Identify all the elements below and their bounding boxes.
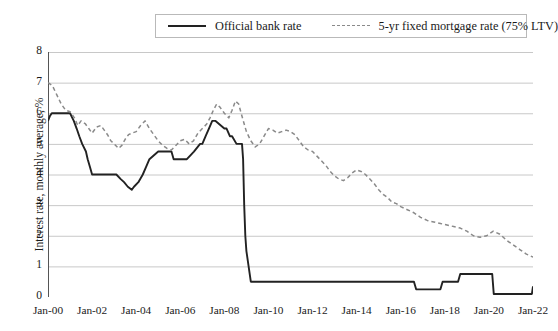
x-tick-label-jan-16: Jan-16 xyxy=(386,305,416,316)
x-tick-label-jan-12: Jan-12 xyxy=(297,305,327,316)
plot-area xyxy=(48,52,533,297)
x-tick-label-jan-14: Jan-14 xyxy=(342,305,372,316)
x-tick-label-jan-06: Jan-06 xyxy=(165,305,195,316)
x-tick-label-jan-18: Jan-18 xyxy=(430,305,460,316)
x-tick-label-jan-20: Jan-20 xyxy=(474,305,504,316)
series-line-mortgage-rate xyxy=(48,83,533,258)
chart-svg xyxy=(48,52,533,297)
x-tick-label-jan-22: Jan-22 xyxy=(518,305,548,316)
x-tick-label-jan-00: Jan-00 xyxy=(33,305,63,316)
x-tick-label-jan-08: Jan-08 xyxy=(209,305,239,316)
x-tick-label-jan-02: Jan-02 xyxy=(77,305,107,316)
x-tick-label-jan-10: Jan-10 xyxy=(253,305,283,316)
x-tick-label-jan-04: Jan-04 xyxy=(121,305,151,316)
